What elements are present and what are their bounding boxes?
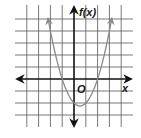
function-graph: f(x) x O <box>0 0 141 138</box>
y-axis-label: f(x) <box>79 6 96 18</box>
x-axis-label: x <box>121 82 129 94</box>
origin-label: O <box>77 83 86 95</box>
